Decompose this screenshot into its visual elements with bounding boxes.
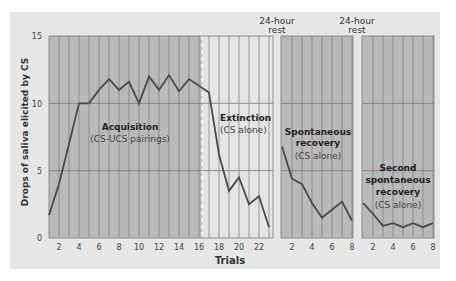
- x-tick: 4: [390, 243, 395, 252]
- x-tick: 6: [96, 243, 101, 252]
- rest-annotation-1-line2: rest: [268, 25, 286, 35]
- y-axis-label: Drops of saliva elicited by CS: [20, 58, 30, 206]
- x-tick: 2: [56, 243, 61, 252]
- x-tick: 6: [410, 243, 415, 252]
- x-tick: 12: [154, 243, 164, 252]
- x-tick: 2: [370, 243, 375, 252]
- x-tick: 8: [116, 243, 121, 252]
- x-tick: 16: [194, 243, 204, 252]
- spontaneous-recovery-label: recovery: [296, 138, 340, 148]
- x-tick: 22: [254, 243, 264, 252]
- spontaneous-recovery-label: Spontaneous: [285, 127, 351, 137]
- x-tick: 8: [349, 243, 354, 252]
- x-tick: 10: [134, 243, 144, 252]
- second-spontaneous-recovery-label: spontaneous: [365, 175, 430, 185]
- y-tick-10: 10: [32, 100, 42, 109]
- x-tick: 6: [329, 243, 334, 252]
- second-spontaneous-recovery-label: recovery: [376, 187, 420, 197]
- x-tick: 2: [289, 243, 294, 252]
- y-tick-0: 0: [37, 234, 42, 243]
- x-tick: 4: [309, 243, 314, 252]
- spontaneous-recovery-sublabel: (CS alone): [295, 151, 342, 161]
- acquisition-sublabel: (CS-UCS pairings): [90, 134, 170, 144]
- second-spontaneous-recovery-label: Second: [380, 163, 417, 173]
- extinction-sublabel: (CS alone): [220, 125, 267, 135]
- y-tick-15: 15: [32, 32, 42, 41]
- x-tick: 8: [430, 243, 435, 252]
- rest-annotation-2-line2: rest: [348, 25, 366, 35]
- y-tick-5: 5: [37, 167, 42, 176]
- x-axis-label: Trials: [215, 255, 245, 266]
- x-tick: 14: [174, 243, 184, 252]
- extinction-label: Extinction: [220, 113, 271, 123]
- x-tick: 18: [214, 243, 224, 252]
- x-tick: 20: [234, 243, 244, 252]
- x-tick: 4: [76, 243, 81, 252]
- acquisition-label: Acquisition: [102, 122, 159, 132]
- second-spontaneous-recovery-sublabel: (CS alone): [375, 200, 422, 210]
- classical-conditioning-chart: 246810121416182022Acquisition(CS-UCS pai…: [0, 0, 456, 281]
